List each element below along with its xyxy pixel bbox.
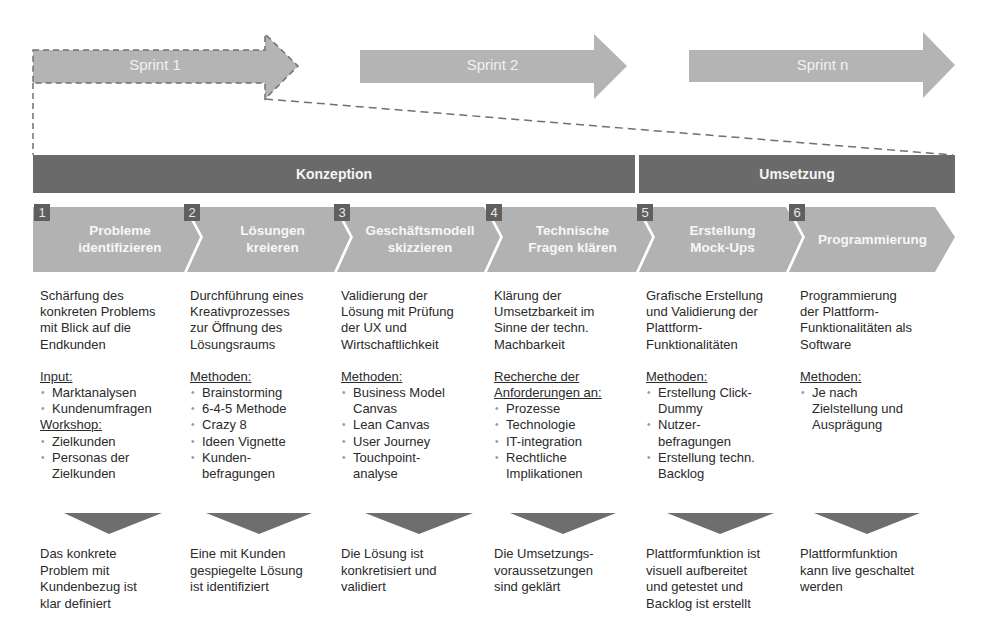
step-result-1: Das konkrete Problem mit Kundenbezug ist… <box>40 546 190 612</box>
step-result-3: Die Lösung ist konkretisiert und validie… <box>341 546 491 596</box>
list-item: Kunden- befragungen <box>190 450 340 482</box>
method-list: Prozesse Technologie IT-integration Rech… <box>494 401 644 482</box>
list-item: Lean Canvas <box>341 417 491 433</box>
section-heading: Methoden: <box>646 369 796 385</box>
list-item: 6-4-5 Methode <box>190 401 340 417</box>
list-item: User Journey <box>341 434 491 450</box>
step-description: Grafische Erstellung und Validierung der… <box>646 288 796 353</box>
phase-label-umsetzung: Umsetzung <box>639 166 955 182</box>
step-title-4: Technische Fragen klären <box>505 210 640 268</box>
step-detail-5: Grafische Erstellung und Validierung der… <box>646 288 796 482</box>
section-heading: Methoden: <box>190 369 340 385</box>
method-list: Zielkunden Personas der Zielkunden <box>40 434 190 483</box>
step-title-6: Programmierung <box>800 210 945 268</box>
list-item: Touchpoint- analyse <box>341 450 491 482</box>
section-heading: Input: <box>40 369 190 385</box>
result-arrow-4 <box>510 513 616 534</box>
method-list: Marktanalysen Kundenumfragen <box>40 385 190 417</box>
step-title-5: Erstellung Mock-Ups <box>655 210 790 268</box>
list-item: Personas der Zielkunden <box>40 450 190 482</box>
list-item: Zielkunden <box>40 434 190 450</box>
section-heading: Methoden: <box>341 369 491 385</box>
list-item: Technologie <box>494 417 644 433</box>
list-item: Rechtliche Implikationen <box>494 450 644 482</box>
zoom-line-right <box>265 99 953 155</box>
step-detail-2: Durchführung eines Kreativprozesses zur … <box>190 288 340 482</box>
list-item: Nutzer- befragungen <box>646 417 796 449</box>
list-item: Erstellung Click- Dummy <box>646 385 796 417</box>
method-list: Brainstorming 6-4-5 Methode Crazy 8 Idee… <box>190 385 340 482</box>
method-list: Je nach Zielstellung und Ausprägung <box>800 385 960 434</box>
sprint-label-n: Sprint n <box>710 56 935 73</box>
result-arrow-2 <box>206 513 312 534</box>
sprint-label-1: Sprint 1 <box>60 56 250 73</box>
section-heading: Workshop: <box>40 417 190 433</box>
step-result-4: Die Umsetzungs- voraussetzungen sind gek… <box>494 546 644 596</box>
step-detail-4: Klärung der Umsetzbarkeit im Sinne der t… <box>494 288 644 482</box>
step-description: Durchführung eines Kreativprozesses zur … <box>190 288 340 353</box>
list-item: Je nach Zielstellung und Ausprägung <box>800 385 960 434</box>
step-result-6: Plattformfunktion kann live geschaltet w… <box>800 546 960 596</box>
result-arrow-5 <box>667 513 774 534</box>
section-heading: Recherche der Anforderungen an: <box>494 369 644 401</box>
section-heading: Methoden: <box>800 369 960 385</box>
result-arrow-1 <box>64 513 162 534</box>
step-result-5: Plattformfunktion ist visuell aufbereite… <box>646 546 796 612</box>
list-item: Business Model Canvas <box>341 385 491 417</box>
list-item: Erstellung techn. Backlog <box>646 450 796 482</box>
list-item: Crazy 8 <box>190 417 340 433</box>
step-description: Schärfung des konkreten Problems mit Bli… <box>40 288 190 353</box>
step-title-1: Probleme identifizieren <box>50 210 190 268</box>
sprint-label-2: Sprint 2 <box>380 56 605 73</box>
list-item: Prozesse <box>494 401 644 417</box>
result-arrow-3 <box>365 513 473 534</box>
method-list: Erstellung Click- Dummy Nutzer- befragun… <box>646 385 796 482</box>
result-arrow-6 <box>814 513 920 534</box>
step-title-3: Geschäftsmodell skizzieren <box>350 210 490 268</box>
list-item: Kundenumfragen <box>40 401 190 417</box>
step-detail-6: Programmierung der Plattform- Funktional… <box>800 288 960 434</box>
step-result-2: Eine mit Kunden gespiegelte Lösung ist i… <box>190 546 340 596</box>
list-item: IT-integration <box>494 434 644 450</box>
step-title-2: Lösungen kreieren <box>205 210 340 268</box>
list-item: Marktanalysen <box>40 385 190 401</box>
step-detail-3: Validierung der Lösung mit Prüfung der U… <box>341 288 491 482</box>
step-detail-1: Schärfung des konkreten Problems mit Bli… <box>40 288 190 482</box>
method-list: Business Model Canvas Lean Canvas User J… <box>341 385 491 482</box>
list-item: Ideen Vignette <box>190 434 340 450</box>
step-description: Validierung der Lösung mit Prüfung der U… <box>341 288 491 353</box>
phase-label-konzeption: Konzeption <box>33 166 635 182</box>
step-description: Programmierung der Plattform- Funktional… <box>800 288 960 353</box>
list-item: Brainstorming <box>190 385 340 401</box>
step-description: Klärung der Umsetzbarkeit im Sinne der t… <box>494 288 644 353</box>
step-number-1: 1 <box>34 204 50 221</box>
